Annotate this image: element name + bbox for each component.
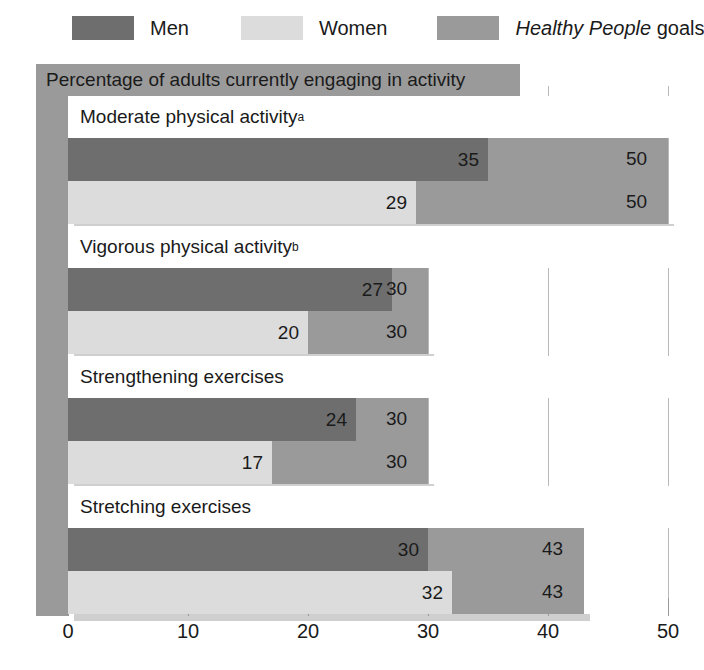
group-label-text: Vigorous physical activity [80,236,292,258]
bar-men[interactable]: 35 [68,138,488,181]
x-tick-label-50: 50 [657,620,679,643]
legend-swatch-women-icon [241,16,303,40]
bar-women[interactable]: 20 [68,311,308,354]
legend-item-men: Men [72,16,189,40]
bar-value-men: 35 [458,149,488,171]
bar-men[interactable]: 30 [68,528,428,571]
legend-label-women: Women [319,17,388,40]
goal-value-women-row: 43 [542,581,563,603]
legend-label-men: Men [150,17,189,40]
bar-value-men: 30 [398,539,428,561]
bar-men[interactable]: 24 [68,398,356,441]
bar-value-men: 24 [326,409,356,431]
group-label: Strengthening exercises [68,356,692,398]
goal-value-women-row: 30 [386,321,407,343]
legend-swatch-men-icon [72,16,134,40]
group-label-text: Stretching exercises [80,496,251,518]
legend-item-goals: Healthy People goals [437,16,704,40]
x-tick-label-30: 30 [417,620,439,643]
bar-value-women: 17 [242,452,272,474]
x-tick-label-20: 20 [297,620,319,643]
plot-area: Percentage of adults currently engaging … [0,56,692,616]
bar-value-women: 20 [278,322,308,344]
bar-women[interactable]: 29 [68,181,416,224]
chart-legend: Men Women Healthy People goals [0,0,692,56]
goal-value-men-row: 30 [386,408,407,430]
group-label: Moderate physical activitya [68,96,692,138]
chart-title-banner: Percentage of adults currently engaging … [36,64,520,96]
bar-group: Strengthening exercises24173030 [0,356,692,486]
bar-value-women: 29 [386,192,416,214]
x-tick-label-40: 40 [537,620,559,643]
group-label: Vigorous physical activityb [68,226,692,268]
goal-value-women-row: 50 [626,191,647,213]
goal-value-women-row: 30 [386,451,407,473]
goal-value-men-row: 43 [542,538,563,560]
group-label-text: Strengthening exercises [80,366,284,388]
bar-group: Moderate physical activitya35295050 [0,96,692,226]
bar-group: Vigorous physical activityb27203030 [0,226,692,356]
legend-swatch-goals-icon [437,16,499,40]
bar-value-women: 32 [422,582,452,604]
bar-groups: Moderate physical activitya35295050Vigor… [0,96,692,616]
bar-group: Stretching exercises30324343 [0,486,692,616]
legend-label-goals-rest: goals [651,17,704,39]
legend-label-goals-italic: Healthy People [515,17,651,39]
group-label: Stretching exercises [68,486,692,528]
bar-men[interactable]: 27 [68,268,392,311]
goal-value-men-row: 50 [626,148,647,170]
bar-women[interactable]: 17 [68,441,272,484]
bar-women[interactable]: 32 [68,571,452,614]
group-label-text: Moderate physical activity [80,106,298,128]
x-axis: 01020304050 [0,616,692,670]
x-tick-label-0: 0 [62,620,73,643]
x-tick-50 [668,598,669,616]
legend-label-goals: Healthy People goals [515,17,704,40]
legend-item-women: Women [241,16,388,40]
goal-value-men-row: 30 [386,278,407,300]
x-tick-label-10: 10 [177,620,199,643]
